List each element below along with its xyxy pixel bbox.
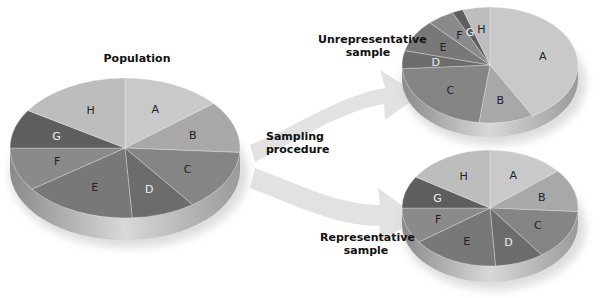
slice-label-f: F (456, 29, 462, 42)
population-pie: ABCDEFGH (10, 78, 248, 248)
slice-label-d: D (145, 183, 153, 196)
slice-label-a: A (152, 103, 160, 116)
slice-label-h: H (477, 23, 485, 36)
slice-label-e: E (91, 181, 98, 194)
slice-label-a: A (539, 50, 547, 63)
representative-sample-title: Representative sample (320, 231, 412, 257)
slice-label-e: E (463, 235, 470, 248)
population-title: Population (92, 52, 182, 65)
slice-label-c: C (534, 219, 542, 232)
sampling-procedure-label: Sampling procedure (266, 130, 336, 156)
slice-label-b: B (496, 94, 504, 107)
slice-label-b: B (538, 191, 546, 204)
rep-line1: Representative (320, 231, 412, 244)
slice-label-h: H (87, 104, 95, 117)
slice-label-f: F (54, 155, 60, 168)
unrep-line2: sample (318, 46, 418, 59)
slice-label-c: C (446, 84, 454, 97)
slice-label-b: B (189, 129, 197, 142)
slice-label-g: G (52, 130, 61, 143)
slice-label-e: E (440, 41, 447, 54)
sampling-line2: procedure (266, 143, 336, 156)
representative-sample-pie: ABCDEFGH (402, 150, 586, 290)
slice-label-g: G (433, 192, 442, 205)
slice-label-d: D (431, 56, 439, 69)
unrepresentative-sample-pie: ABCDEFGH (402, 7, 586, 145)
unrep-line1: Unrepresentative (318, 33, 418, 46)
rep-line2: sample (320, 244, 412, 257)
sampling-line1: Sampling (266, 130, 336, 143)
unrepresentative-sample-title: Unrepresentative sample (318, 33, 418, 59)
slice-label-f: F (435, 213, 441, 226)
slice-label-d: D (504, 236, 512, 249)
slice-label-h: H (460, 170, 468, 183)
slice-label-c: C (184, 163, 192, 176)
slice-label-a: A (509, 169, 517, 182)
